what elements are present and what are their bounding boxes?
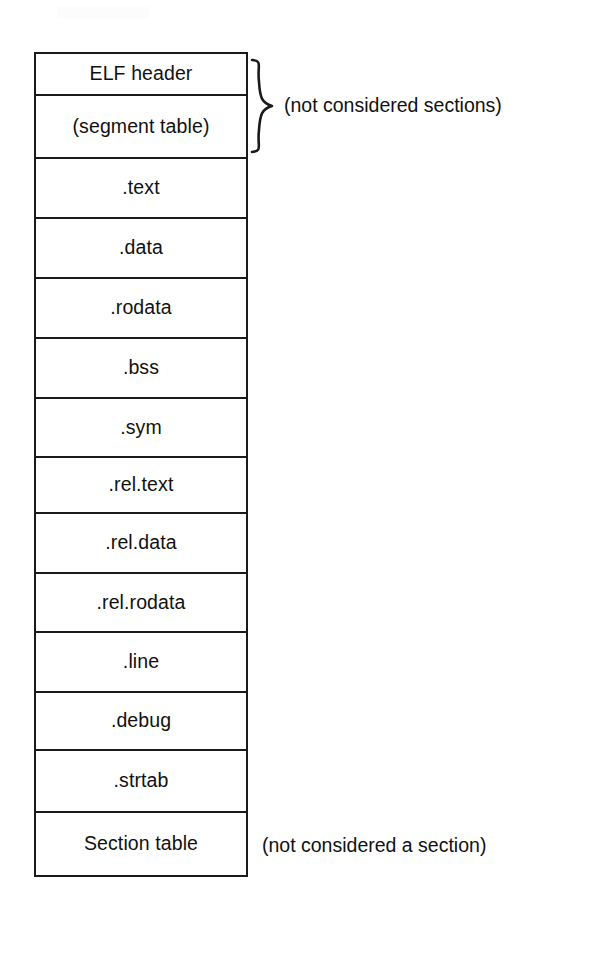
elf-section-stack: ELF header(segment table).text.data.roda… [34,52,248,877]
elf-section-row: .text [36,159,246,219]
elf-section-row-label: (segment table) [73,117,210,137]
elf-section-row: Section table [36,813,246,875]
elf-section-row: .rel.data [36,514,246,574]
elf-section-row-label: .strtab [114,771,169,791]
curly-brace-icon [248,58,278,154]
elf-section-row-label: .debug [111,711,171,731]
elf-section-row-label: .rel.rodata [97,593,186,613]
elf-section-row: .strtab [36,751,246,813]
brace-annotation-label: (not considered sections) [284,58,502,154]
elf-section-row-label: .rel.text [109,475,174,495]
not-sections-brace-group: (not considered sections) [248,58,593,154]
elf-section-row: .line [36,633,246,693]
elf-section-row-label: Section table [84,834,198,854]
elf-section-row-label: .data [119,238,163,258]
elf-section-row: .sym [36,399,246,458]
scan-artifact [57,7,149,18]
elf-section-row: .rel.text [36,458,246,514]
elf-section-row: .debug [36,693,246,751]
elf-section-row-label: .rel.data [105,533,176,553]
section-table-annotation-label: (not considered a section) [262,815,486,877]
elf-section-row: .rodata [36,279,246,339]
elf-section-row-label: .rodata [110,298,171,318]
elf-section-row-label: .bss [123,358,159,378]
elf-section-row-label: .sym [120,418,162,438]
elf-object-file-diagram: ELF header(segment table).text.data.roda… [0,0,605,962]
elf-section-row: .bss [36,339,246,399]
elf-section-row: .rel.rodata [36,574,246,633]
elf-section-row-label: .line [123,652,159,672]
elf-section-row: .data [36,219,246,279]
elf-section-row: (segment table) [36,96,246,159]
elf-section-row-label: .text [122,178,159,198]
elf-section-row: ELF header [36,54,246,96]
elf-section-row-label: ELF header [90,64,193,84]
